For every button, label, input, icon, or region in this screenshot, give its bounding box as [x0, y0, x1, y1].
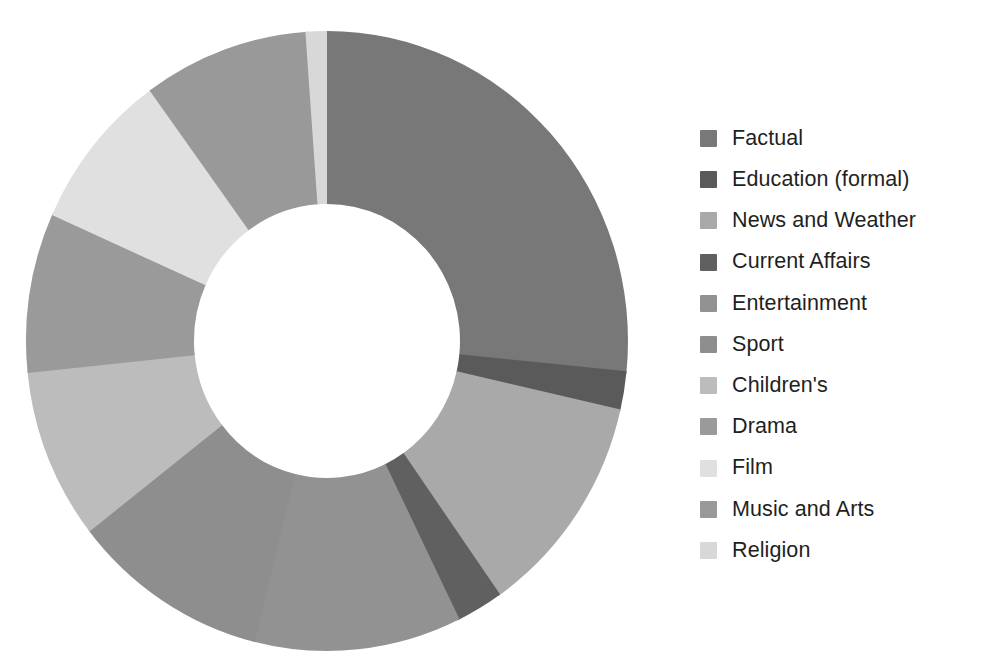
legend-item[interactable]: Current Affairs: [700, 242, 972, 283]
legend-color-swatch-icon: [700, 212, 717, 229]
legend-item-label: Sport: [732, 334, 784, 356]
legend-item-label: News and Weather: [732, 210, 916, 232]
legend-item-label: Children's: [732, 375, 828, 397]
legend-color-swatch-icon: [700, 171, 717, 188]
legend-item[interactable]: Drama: [700, 406, 972, 447]
legend-item-label: Current Affairs: [732, 251, 871, 273]
legend-item[interactable]: Music and Arts: [700, 489, 972, 530]
chart-page: FactualEducation (formal)News and Weathe…: [0, 0, 982, 672]
legend-color-swatch-icon: [700, 542, 717, 559]
legend-color-swatch-icon: [700, 254, 717, 271]
legend-item-label: Factual: [732, 128, 803, 150]
legend-color-swatch-icon: [700, 377, 717, 394]
legend-item[interactable]: Sport: [700, 324, 972, 365]
legend-item[interactable]: Children's: [700, 365, 972, 406]
legend-item-label: Entertainment: [732, 293, 867, 315]
chart-legend: FactualEducation (formal)News and Weathe…: [700, 118, 972, 571]
donut-slice-group: [26, 31, 628, 651]
donut-slice[interactable]: [327, 31, 628, 374]
legend-item[interactable]: Film: [700, 448, 972, 489]
legend-item-label: Film: [732, 457, 773, 479]
legend-color-swatch-icon: [700, 460, 717, 477]
legend-item-label: Music and Arts: [732, 499, 874, 521]
legend-color-swatch-icon: [700, 501, 717, 518]
legend-item[interactable]: Entertainment: [700, 283, 972, 324]
legend-item[interactable]: Religion: [700, 530, 972, 571]
legend-color-swatch-icon: [700, 130, 717, 147]
legend-item[interactable]: Factual: [700, 118, 972, 159]
legend-item-label: Religion: [732, 540, 811, 562]
legend-color-swatch-icon: [700, 295, 717, 312]
legend-item-label: Drama: [732, 416, 797, 438]
legend-item-label: Education (formal): [732, 169, 909, 191]
legend-color-swatch-icon: [700, 418, 717, 435]
donut-chart-svg: [0, 0, 660, 672]
legend-item[interactable]: News and Weather: [700, 200, 972, 241]
donut-chart-area: [0, 0, 660, 672]
legend-color-swatch-icon: [700, 336, 717, 353]
legend-item[interactable]: Education (formal): [700, 159, 972, 200]
